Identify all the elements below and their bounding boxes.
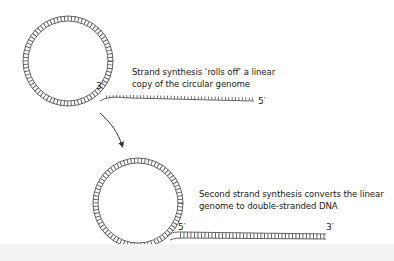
caption-stage2: Second strand synthesis converts the lin…	[199, 188, 384, 212]
circular-genome-top	[23, 16, 113, 106]
caption-stage1-line1: Strand synthesis ‘rolls off’ a linear	[132, 66, 275, 78]
label-3prime-bottom: 3′	[326, 222, 334, 232]
transition-arrow	[100, 113, 122, 145]
caption-stage1: Strand synthesis ‘rolls off’ a linear co…	[132, 66, 275, 90]
caption-stage1-line2: copy of the circular genome	[132, 78, 275, 90]
label-5prime-bottom: 5′	[178, 222, 186, 232]
caption-stage2-line1: Second strand synthesis converts the lin…	[199, 188, 384, 200]
caption-stage2-line2: genome to double-stranded DNA	[199, 200, 384, 212]
single-strand-top	[100, 97, 254, 102]
rolling-circle-diagram	[0, 0, 394, 261]
label-3prime-top: 3′	[96, 81, 104, 91]
double-strand-bottom	[168, 232, 326, 240]
footer-band	[0, 244, 394, 261]
label-5prime-top: 5′	[258, 96, 266, 106]
